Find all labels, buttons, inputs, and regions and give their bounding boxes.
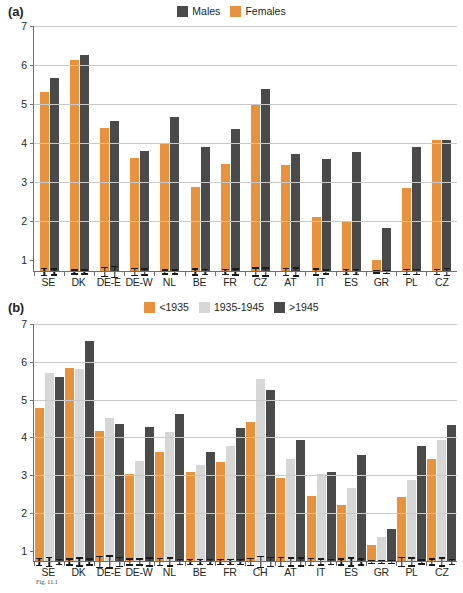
y-axis-tick <box>30 221 34 222</box>
panel-a-x-label: CZ <box>427 276 457 288</box>
bar-slot <box>322 26 331 272</box>
panel-a-x-label: BE <box>184 276 214 288</box>
panel-b-y-tick-label: 6 <box>21 356 27 368</box>
bar-slot <box>216 324 225 562</box>
bar-slot <box>226 324 235 562</box>
y-axis-tick <box>30 437 34 438</box>
panel-b-group-cz-13 <box>427 324 457 562</box>
bar-males <box>140 151 149 272</box>
panel-b-x-label: PL <box>396 566 426 578</box>
panel-b-x-label: SE <box>33 566 63 578</box>
bar-slot <box>372 26 381 272</box>
y-axis-tick <box>30 475 34 476</box>
bar-slot <box>357 324 366 562</box>
panel-b-y-tick-label: 1 <box>21 545 27 557</box>
bar-slot <box>70 26 79 272</box>
bar-slot <box>281 26 290 272</box>
y-axis-tick <box>30 513 34 514</box>
gridline <box>34 143 457 144</box>
bar-females <box>251 104 260 272</box>
legend-swatch-icon <box>230 6 241 17</box>
bar-slot <box>437 324 446 562</box>
bar-slot <box>352 26 361 272</box>
bar-1945 <box>447 425 456 562</box>
panel-a-group-cz-13 <box>427 26 457 272</box>
bar-19351945 <box>105 418 114 562</box>
legend-swatch-icon <box>177 6 188 17</box>
bar-1935 <box>397 497 406 562</box>
panel-b-x-label: FR <box>215 566 245 578</box>
panel-a-y-tick-label: 2 <box>21 215 27 227</box>
bar-slot <box>276 324 285 562</box>
panel-a-group-pl-12 <box>397 26 427 272</box>
legend-label: >1945 <box>289 301 319 313</box>
bar-1935 <box>95 431 104 562</box>
bar-slot <box>40 26 49 272</box>
y-axis-tick <box>30 143 34 144</box>
bar-slot <box>65 324 74 562</box>
panel-b-bar-groups <box>34 324 457 562</box>
bar-slot <box>165 324 174 562</box>
bar-slot <box>256 324 265 562</box>
bar-slot <box>442 26 451 272</box>
panel-b-group-at-8 <box>276 324 306 562</box>
bar-females <box>281 165 290 272</box>
gridline <box>34 26 457 27</box>
panel-b-group-it-9 <box>306 324 336 562</box>
bar-slot <box>266 324 275 562</box>
bar-slot <box>201 26 210 272</box>
panel-a-x-label: DE-E <box>94 276 124 288</box>
bar-1935 <box>307 496 316 562</box>
bar-1935 <box>65 368 74 562</box>
panel-a-y-tick-label: 5 <box>21 98 27 110</box>
panel-b-legend-item-post1945: >1945 <box>274 301 319 313</box>
panel-b-x-label: ES <box>336 566 366 578</box>
bar-slot <box>110 26 119 272</box>
bar-slot <box>307 324 316 562</box>
panel-a-group-dk-1 <box>64 26 94 272</box>
panel-b-y-tick-label: 4 <box>21 431 27 443</box>
bar-19351945 <box>165 432 174 562</box>
bar-slot <box>261 26 270 272</box>
bar-males <box>322 159 331 272</box>
panel-b-y-tick-label: 3 <box>21 469 27 481</box>
bar-19351945 <box>226 446 235 562</box>
panel-b-x-label: NL <box>154 566 184 578</box>
panel-a-group-cz-7 <box>246 26 276 272</box>
y-axis-tick <box>30 551 34 552</box>
panel-b-y-tick-label: 7 <box>21 318 27 330</box>
panel-b: (b) <19351935-1945>1945 1234567 SEDKDE-E… <box>0 296 463 568</box>
bar-slot <box>75 324 84 562</box>
bar-slot <box>427 324 436 562</box>
legend-label: 1935-1945 <box>214 301 264 313</box>
gridline <box>34 221 457 222</box>
panel-a-plot-area: 1234567 <box>33 26 457 272</box>
bar-slot <box>155 324 164 562</box>
bar-slot <box>100 26 109 272</box>
bar-19351945 <box>45 373 54 562</box>
panel-b-x-label: CZ <box>427 566 457 578</box>
y-axis-tick <box>30 65 34 66</box>
panel-a-group-at-8 <box>276 26 306 272</box>
panel-a-y-tick-label: 6 <box>21 59 27 71</box>
bar-19351945 <box>377 537 386 562</box>
panel-b-x-label: DE-W <box>124 566 154 578</box>
bar-slot <box>231 26 240 272</box>
panel-a-x-label: FR <box>215 276 245 288</box>
bar-males <box>291 154 300 272</box>
panel-b-group-pl-12 <box>397 324 427 562</box>
bar-1945 <box>296 440 305 562</box>
bar-slot <box>175 324 184 562</box>
bar-females <box>342 222 351 272</box>
panel-a-legend-item-females: Females <box>230 5 285 17</box>
bar-19351945 <box>75 369 84 562</box>
bar-slot <box>130 26 139 272</box>
bar-slot <box>85 324 94 562</box>
bar-females <box>100 128 109 272</box>
legend-label: Males <box>192 5 220 17</box>
panel-b-x-label: DK <box>63 566 93 578</box>
figure-caption: Fig. 11.1 <box>0 578 463 593</box>
panel-b-legend: <19351935-1945>1945 <box>0 301 463 313</box>
bar-1945 <box>236 428 245 562</box>
bar-males <box>80 55 89 272</box>
